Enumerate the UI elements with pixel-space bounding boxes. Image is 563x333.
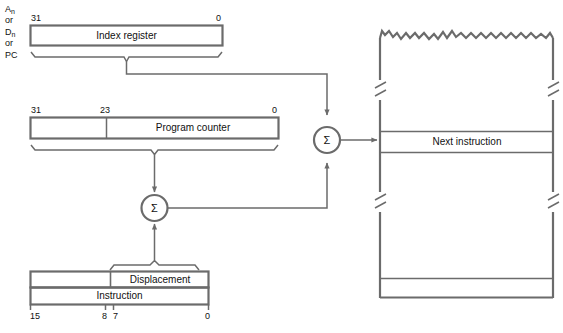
program-counter-brace xyxy=(31,145,278,155)
memory-next-instruction-label: Next instruction xyxy=(380,136,554,148)
instruction-bit-0: 0 xyxy=(205,311,210,321)
displacement-brace xyxy=(110,261,199,271)
instruction-bit-7: 7 xyxy=(113,311,118,321)
source-label-or-1: or xyxy=(5,15,18,26)
source-label-or-2: or xyxy=(5,38,18,49)
program-counter-bit-low: 0 xyxy=(272,105,277,115)
program-counter-label: Program counter xyxy=(107,122,279,134)
index-register-label: Index register xyxy=(30,30,223,42)
upper-adder-symbol: Σ xyxy=(315,135,340,146)
program-counter-bit-high: 31 xyxy=(31,105,41,115)
source-label-dn: Dn xyxy=(5,27,18,38)
diagram-vector-layer xyxy=(0,0,563,333)
diagram-canvas: An or Dn or PC 31 0 Index register 31 23… xyxy=(0,0,563,333)
instruction-label: Instruction xyxy=(30,290,209,302)
memory-block xyxy=(380,31,553,298)
instruction-bit-8: 8 xyxy=(102,311,107,321)
index-register-bit-high: 31 xyxy=(31,13,41,23)
lower-adder-output-line xyxy=(168,163,328,208)
source-label-an: An xyxy=(5,4,18,15)
program-counter-bit-mid: 23 xyxy=(100,105,110,115)
lower-adder-symbol: Σ xyxy=(142,203,167,214)
index-register-bit-low: 0 xyxy=(216,13,221,23)
source-label-pc: PC xyxy=(5,50,18,61)
displacement-label: Displacement xyxy=(111,274,209,286)
index-register-to-adder-line xyxy=(127,62,328,116)
index-register-brace xyxy=(31,52,222,62)
source-register-label: An or Dn or PC xyxy=(5,4,18,61)
instruction-bit-15: 15 xyxy=(30,311,40,321)
